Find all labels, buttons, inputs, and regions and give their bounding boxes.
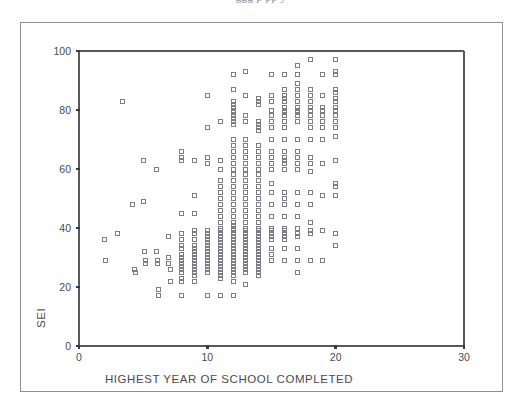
scatter-point: [334, 114, 338, 118]
scatter-point: [282, 197, 286, 201]
y-axis-title: SEI: [35, 308, 47, 328]
scatter-point: [257, 161, 261, 165]
scatter-point: [334, 120, 338, 124]
scatter-point: [308, 191, 312, 195]
scatter-point: [154, 167, 158, 171]
scatter-point: [231, 214, 235, 218]
scatter-point: [295, 149, 299, 153]
scatter-point: [321, 114, 325, 118]
scatter-point: [257, 179, 261, 183]
scatter-point: [141, 199, 145, 203]
scatter-point: [282, 73, 286, 77]
scatter-point: [231, 279, 235, 283]
scatter-point: [308, 170, 312, 174]
scatter-point: [218, 167, 222, 171]
scatter-point: [244, 208, 248, 212]
scatter-point: [257, 202, 261, 206]
scatter-point: [244, 197, 248, 201]
scatter-point: [321, 138, 325, 142]
scatter-point: [180, 238, 184, 242]
scatter-point: [168, 267, 172, 271]
scatter-point: [270, 191, 274, 195]
scatter-point: [308, 93, 312, 97]
scatter-point: [257, 167, 261, 171]
scatter-point: [193, 211, 197, 215]
scatter-point: [244, 143, 248, 147]
scatter-point: [270, 108, 274, 112]
scatter-point: [270, 161, 274, 165]
scatter-point: [270, 155, 274, 159]
x-axis-tick-labels: 0102030: [76, 351, 470, 363]
scatter-point: [231, 167, 235, 171]
scatter-point: [270, 120, 274, 124]
scatter-point: [257, 185, 261, 189]
x-tick-label-30: 30: [458, 351, 470, 363]
scatter-point: [231, 161, 235, 165]
scatter-point: [308, 258, 312, 262]
scatter-point: [270, 93, 274, 97]
scatter-point: [231, 149, 235, 153]
scatter-point: [270, 167, 274, 171]
scatter-point: [167, 256, 171, 260]
scatter-point: [131, 202, 135, 206]
scatter-point: [321, 229, 325, 233]
scatter-point: [270, 114, 274, 118]
scatter-point: [167, 261, 171, 265]
scatter-chart-svg: 020406080100 0102030 HIGHEST YEAR OF SCH…: [21, 23, 504, 393]
scatter-point: [308, 114, 312, 118]
scatter-point: [103, 238, 107, 242]
scatter-point: [295, 87, 299, 91]
scatter-point: [257, 143, 261, 147]
scatter-point: [121, 99, 125, 103]
scatter-point: [295, 73, 299, 77]
scatter-point: [244, 120, 248, 124]
scatter-point: [334, 126, 338, 130]
scatter-point: [282, 138, 286, 142]
scatter-point: [180, 294, 184, 298]
scatter-point: [244, 202, 248, 206]
scatter-point: [231, 87, 235, 91]
scatter-point: [244, 155, 248, 159]
scatter-point: [193, 194, 197, 198]
scatter-point: [257, 220, 261, 224]
scatter-point: [257, 155, 261, 159]
scatter-point: [282, 120, 286, 124]
scatter-point: [334, 158, 338, 162]
scatter-point: [231, 197, 235, 201]
y-axis-tick-labels: 020406080100: [53, 45, 71, 352]
scatter-point: [244, 282, 248, 286]
scatter-point: [180, 149, 184, 153]
scatter-point: [334, 232, 338, 236]
scatter-point: [244, 179, 248, 183]
clipped-header-text: ggg p pp y: [0, 0, 522, 5]
scatter-point: [270, 126, 274, 130]
scatter-point: [157, 288, 161, 292]
scatter-point: [270, 258, 274, 262]
scatter-point: [308, 99, 312, 103]
scatter-point: [295, 161, 299, 165]
y-tick-label-40: 40: [59, 222, 71, 234]
scatter-point: [308, 161, 312, 165]
scatter-point: [270, 182, 274, 186]
scatter-point: [308, 87, 312, 91]
scatter-point: [141, 158, 145, 162]
scatter-point: [282, 149, 286, 153]
scatter-point: [218, 202, 222, 206]
scatter-point: [218, 294, 222, 298]
scatter-point: [231, 294, 235, 298]
scatter-point: [257, 191, 261, 195]
scatter-point: [295, 81, 299, 85]
scatter-point: [308, 120, 312, 124]
scatter-point: [282, 87, 286, 91]
scatter-point: [257, 149, 261, 153]
x-tick-label-10: 10: [201, 351, 213, 363]
scatter-point: [218, 191, 222, 195]
scatter-point: [244, 161, 248, 165]
scatter-point: [244, 220, 248, 224]
x-tick-label-0: 0: [76, 351, 82, 363]
scatter-point: [231, 143, 235, 147]
scatter-point: [321, 93, 325, 97]
scatter-point: [282, 191, 286, 195]
scatter-point: [308, 202, 312, 206]
scatter-point: [218, 214, 222, 218]
